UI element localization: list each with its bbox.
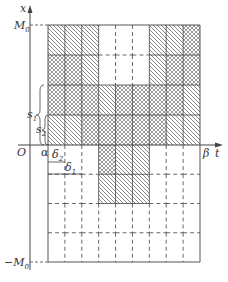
m0-label: M0 — [13, 19, 30, 34]
grid-cell-diag — [183, 85, 200, 115]
grid-cell-cross — [48, 55, 65, 85]
grid-cell-cross — [166, 55, 183, 85]
grid-cell-cross — [166, 85, 183, 115]
s1-label: s1 — [27, 108, 37, 123]
grid-cell-cross — [99, 115, 116, 145]
t-axis-label: t — [215, 147, 220, 160]
grid-cell-diag — [82, 25, 99, 55]
grid-cell-diag — [149, 55, 166, 85]
grid-cell-diag — [183, 115, 200, 145]
grid-cell-diag — [116, 174, 133, 203]
grid-cell-cross — [82, 85, 99, 115]
grid-cell-cross — [82, 115, 99, 145]
grid-cell-diag — [48, 115, 65, 145]
grid-cell-cross — [116, 85, 133, 115]
grid-cell-cross — [183, 25, 200, 55]
grid-diagram: x M0 −M0 O α β t s1 s2 δ2 δ1 — [0, 0, 228, 282]
grid-cell-diag — [65, 115, 82, 145]
grid-cell-cross — [149, 115, 166, 145]
grid-cell-diag — [65, 25, 82, 55]
y-axis-label: x — [20, 2, 27, 15]
diagram-canvas: x M0 −M0 O α β t s1 s2 δ2 δ1 — [0, 0, 228, 282]
grid-cell-cross — [149, 85, 166, 115]
grid-cell-diag — [132, 174, 149, 203]
grid-cell-diag — [48, 25, 65, 55]
grid-cell-diag — [166, 25, 183, 55]
delta2-label: δ2 — [52, 148, 64, 163]
grid-cell-cross — [116, 115, 133, 145]
alpha-label: α — [41, 146, 49, 159]
grid-cell-diag — [82, 55, 99, 85]
grid-cell-diag — [132, 145, 149, 174]
beta-label: β — [202, 147, 209, 160]
grid-cell-diag — [166, 115, 183, 145]
grid-cell-cross — [65, 55, 82, 85]
y-axis-arrow-icon — [28, 5, 33, 13]
grid-cell-cross — [132, 85, 149, 115]
grid-cell-diag — [149, 25, 166, 55]
grid-cell-diag — [99, 174, 116, 203]
grid-cell-diag — [116, 145, 133, 174]
grid-cell-cross — [132, 115, 149, 145]
delta1-label: δ1 — [65, 161, 76, 176]
grid-cell-diag — [99, 85, 116, 115]
grid-cell-cross — [99, 145, 116, 174]
origin-label: O — [17, 146, 26, 159]
grid-cell-cross — [65, 85, 82, 115]
grid-cell-cross — [183, 55, 200, 85]
neg-m0-label: −M0 — [4, 256, 29, 271]
grid-cell-cross — [48, 85, 65, 115]
hatched-cells — [48, 25, 200, 204]
